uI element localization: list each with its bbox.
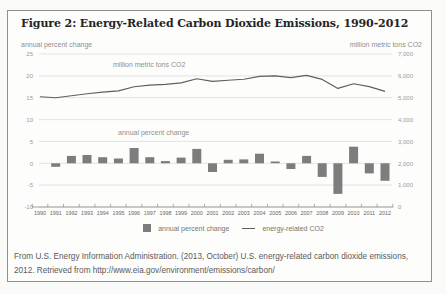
svg-text:1991: 1991 [50,210,62,216]
source-caption: From U.S. Energy Information Administrat… [14,250,408,278]
emissions-chart: 257,000206,000155,000104,00053,00002,000… [9,51,432,223]
svg-text:1999: 1999 [175,210,187,216]
svg-text:3,000: 3,000 [398,139,414,145]
svg-text:2007: 2007 [301,210,313,216]
svg-text:0: 0 [398,204,402,210]
svg-text:1996: 1996 [128,210,140,216]
svg-text:2001: 2001 [207,210,219,216]
svg-text:2010: 2010 [348,210,360,216]
svg-text:1997: 1997 [144,210,156,216]
svg-text:2012: 2012 [379,210,391,216]
svg-text:1994: 1994 [97,210,109,216]
svg-text:2008: 2008 [316,210,328,216]
svg-text:25: 25 [26,51,33,57]
svg-text:5,000: 5,000 [398,95,414,101]
svg-text:20: 20 [26,73,33,79]
svg-text:5: 5 [30,139,34,145]
line-series-inner-label: million metric tons CO2 [113,61,185,68]
bar-series-inner-label: annual percent change [118,129,189,137]
svg-text:4,000: 4,000 [398,117,414,123]
svg-text:1995: 1995 [112,210,124,216]
svg-text:1990: 1990 [34,210,46,216]
svg-text:2000: 2000 [191,210,203,216]
legend-line-label: energy-related CO2 [262,225,323,232]
svg-text:6,000: 6,000 [398,73,414,79]
svg-text:0: 0 [30,161,34,167]
svg-text:2003: 2003 [238,210,250,216]
left-axis-title: annual percent change [21,41,92,48]
svg-text:15: 15 [26,95,33,101]
svg-text:7,000: 7,000 [398,51,414,57]
svg-text:1,000: 1,000 [398,182,414,188]
svg-text:1993: 1993 [81,210,93,216]
figure-title: Figure 2: Energy-Related Carbon Dioxide … [21,17,408,30]
chart-generated: 257,000206,000155,000104,00053,00002,000… [24,51,413,216]
svg-text:10: 10 [26,117,33,123]
svg-text:2,000: 2,000 [398,161,414,167]
svg-text:2009: 2009 [332,210,344,216]
legend: annual percent change energy-related CO2 [22,224,445,232]
figure-box: Figure 2: Energy-Related Carbon Dioxide … [7,10,432,282]
svg-text:2002: 2002 [222,210,234,216]
svg-text:2005: 2005 [269,210,281,216]
svg-text:1992: 1992 [65,210,77,216]
svg-text:2004: 2004 [254,210,266,216]
bar-swatch-icon [143,224,151,232]
caption-line-1: From U.S. Energy Information Administrat… [14,250,408,264]
legend-bar-label: annual percent change [158,225,229,232]
svg-text:1998: 1998 [159,210,171,216]
right-axis-title: million metric tons CO2 [350,41,422,48]
svg-text:2011: 2011 [364,210,376,216]
svg-text:2006: 2006 [285,210,297,216]
caption-line-2: 2012. Retrieved from http://www.eia.gov/… [14,264,408,278]
svg-text:-5: -5 [28,182,34,188]
line-swatch-icon [242,228,255,229]
